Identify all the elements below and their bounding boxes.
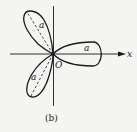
figure-caption: (b) xyxy=(45,113,58,123)
origin-point xyxy=(51,52,54,55)
rose-curve-diagram: a a a O x (b) xyxy=(0,0,137,132)
x-axis-label: x xyxy=(127,49,132,59)
petal-label-upper: a xyxy=(39,20,44,30)
origin-label: O xyxy=(55,60,63,70)
petal-label-lower: a xyxy=(31,72,36,82)
petal-label-right: a xyxy=(84,43,89,53)
x-axis-arrow-icon xyxy=(118,52,126,57)
petal-upper-left xyxy=(24,11,53,54)
